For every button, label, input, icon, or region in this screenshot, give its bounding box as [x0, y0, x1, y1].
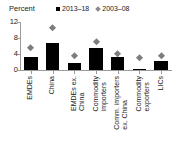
- chart-figure: Percent 2013–18 2003–08 04812 EMDEsChina…: [0, 0, 176, 144]
- y-axis-ticks: 04812: [0, 0, 18, 144]
- chart-legend: 2013–18 2003–08: [56, 5, 130, 13]
- x-tick-mark: [31, 71, 32, 74]
- x-tick-mark: [161, 71, 162, 74]
- x-tick-mark: [96, 71, 97, 74]
- legend-entry-0[interactable]: 2013–18: [56, 5, 89, 13]
- x-category-label: EMDEs: [26, 76, 34, 100]
- x-category-label: Comm. importers ex. China: [113, 76, 128, 130]
- x-category-label: China: [48, 76, 56, 94]
- x-tick-mark: [74, 71, 75, 74]
- x-category-label: LICs: [157, 76, 165, 90]
- x-category-label: Commodity importers: [92, 76, 107, 111]
- bar: [24, 57, 37, 70]
- legend-label-1: 2003–08: [102, 5, 129, 13]
- bar: [89, 48, 102, 70]
- bar: [68, 63, 81, 70]
- x-tick-mark: [118, 71, 119, 74]
- x-tick-mark: [139, 71, 140, 74]
- bar: [46, 43, 59, 70]
- x-category-label: EMDEs ex. China: [70, 76, 85, 111]
- diamond-marker-icon: [95, 6, 101, 12]
- bar: [133, 69, 146, 70]
- legend-label-0: 2013–18: [62, 5, 89, 13]
- square-marker-icon: [56, 7, 60, 11]
- bar: [154, 61, 167, 70]
- x-category-label: Commodity exporters: [135, 76, 150, 111]
- bar: [111, 57, 124, 70]
- x-tick-mark: [53, 71, 54, 74]
- legend-entry-1[interactable]: 2003–08: [96, 5, 129, 13]
